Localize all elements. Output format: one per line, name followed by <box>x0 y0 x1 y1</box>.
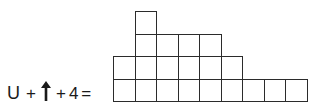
grid-cell <box>221 79 244 103</box>
grid-cell <box>264 79 287 103</box>
grid-cell <box>199 34 222 58</box>
grid-cell <box>113 79 136 103</box>
grid-cell <box>156 56 179 80</box>
grid-cell <box>135 79 158 103</box>
grid-cell <box>178 79 201 103</box>
grid-cell <box>242 79 265 103</box>
grid-cell <box>221 56 244 80</box>
grid-cell <box>199 79 222 103</box>
grid-cell <box>178 56 201 80</box>
grid-cell <box>156 34 179 58</box>
grid-cell <box>285 79 308 103</box>
grid-cell <box>156 79 179 103</box>
grid-cell <box>135 11 158 35</box>
grid-cell <box>135 34 158 58</box>
grid-cell <box>113 56 136 80</box>
grid-cell <box>199 56 222 80</box>
staircase-grid <box>0 0 312 108</box>
grid-cell <box>135 56 158 80</box>
grid-cell <box>178 34 201 58</box>
